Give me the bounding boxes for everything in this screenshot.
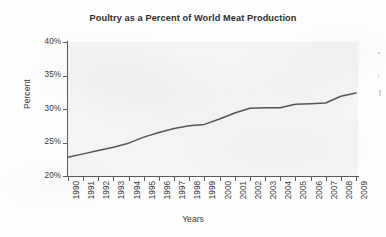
x-tick-label: 1992: [102, 181, 111, 199]
x-tick-label: 1991: [87, 181, 96, 199]
x-tick-mark: [295, 177, 296, 181]
x-tick-label: 2005: [299, 181, 308, 199]
y-axis-label: Percent: [22, 79, 32, 109]
x-tick-label: 2002: [254, 181, 263, 199]
y-tick-mark: [63, 42, 68, 43]
x-tick-label: 2008: [345, 181, 354, 199]
x-tick-label: 1996: [163, 181, 172, 199]
x-tick-mark: [250, 177, 251, 181]
x-tick-mark: [159, 177, 160, 181]
x-tick-mark: [98, 177, 99, 181]
x-tick-label: 2006: [315, 181, 324, 199]
x-tick-mark: [220, 177, 221, 181]
y-tick-mark: [63, 76, 68, 77]
x-tick-label: 1999: [208, 181, 217, 199]
chart-title: Poultry as a Percent of World Meat Produ…: [0, 13, 386, 23]
scan-artifact-speck: [378, 52, 380, 54]
x-tick-mark: [235, 177, 236, 181]
x-tick-mark: [144, 177, 145, 181]
x-tick-mark: [113, 177, 114, 181]
x-tick-mark: [189, 177, 190, 181]
scan-artifact-speck: [379, 90, 381, 96]
x-tick-mark: [311, 177, 312, 181]
x-tick-label: 1994: [133, 181, 142, 199]
x-tick-label: 2007: [330, 181, 339, 199]
x-tick-label: 2000: [224, 181, 233, 199]
x-tick-mark: [68, 177, 69, 181]
plot-background-tint: [68, 42, 358, 176]
x-tick-label: 1997: [178, 181, 187, 199]
x-tick-label: 1998: [193, 181, 202, 199]
y-tick-label: 35%: [21, 70, 61, 79]
x-tick-label: 1990: [72, 181, 81, 199]
x-axis-line: [67, 176, 359, 177]
x-tick-label: 1993: [117, 181, 126, 199]
x-axis-label: Years: [0, 214, 386, 224]
x-tick-label: 2009: [360, 181, 369, 199]
x-tick-label: 2001: [239, 181, 248, 199]
y-tick-mark: [63, 143, 68, 144]
scan-artifact-speck: [378, 74, 379, 77]
plot-area: [68, 42, 358, 176]
x-tick-mark: [341, 177, 342, 181]
x-tick-mark: [174, 177, 175, 181]
x-tick-label: 2003: [269, 181, 278, 199]
x-tick-label: 1995: [148, 181, 157, 199]
x-tick-mark: [265, 177, 266, 181]
y-tick-label: 25%: [21, 137, 61, 146]
x-tick-mark: [326, 177, 327, 181]
y-tick-label: 20%: [21, 171, 61, 180]
y-tick-mark: [63, 109, 68, 110]
y-tick-label: 40%: [21, 37, 61, 46]
x-tick-label: 2004: [284, 181, 293, 199]
x-tick-mark: [204, 177, 205, 181]
chart-page: Poultry as a Percent of World Meat Produ…: [0, 0, 386, 237]
x-tick-mark: [356, 177, 357, 181]
x-tick-mark: [129, 177, 130, 181]
x-tick-mark: [280, 177, 281, 181]
x-tick-mark: [83, 177, 84, 181]
